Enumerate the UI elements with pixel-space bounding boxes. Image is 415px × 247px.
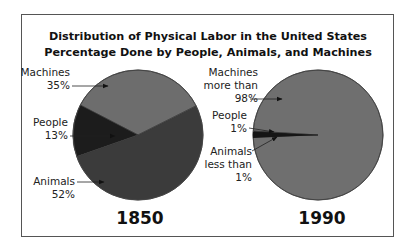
slice-label-machines-1990: more than xyxy=(204,79,258,91)
slice-label-machines-1990: 98% xyxy=(235,92,258,104)
year-label-1850: 1850 xyxy=(116,208,163,228)
slice-label-animals-1990: Animals xyxy=(210,145,252,157)
slice-label-animals-1990: less than xyxy=(204,158,252,170)
pie-1850 xyxy=(73,70,203,200)
pie-1990 xyxy=(253,70,383,200)
chart-subtitle: Percentage Done by People, Animals, and … xyxy=(44,46,372,59)
slice-label-animals-1990: 1% xyxy=(235,171,252,183)
slice-label-people-1990: People xyxy=(212,109,247,121)
year-label-1990: 1990 xyxy=(298,208,345,228)
slice-label-people-1990: 1% xyxy=(230,122,247,134)
slice-label-people-1850: People xyxy=(33,116,68,128)
slice-label-machines-1850: 35% xyxy=(47,79,70,91)
slice-label-animals-1850: 52% xyxy=(52,188,75,200)
slice-label-machines-1990: Machines xyxy=(209,66,258,78)
chart-title: Distribution of Physical Labor in the Un… xyxy=(49,30,367,43)
chart-svg: Distribution of Physical Labor in the Un… xyxy=(0,0,415,247)
slice-label-people-1850: 13% xyxy=(45,129,68,141)
slice-label-machines-1850: Machines xyxy=(21,66,70,78)
slice-label-animals-1850: Animals xyxy=(33,175,75,187)
